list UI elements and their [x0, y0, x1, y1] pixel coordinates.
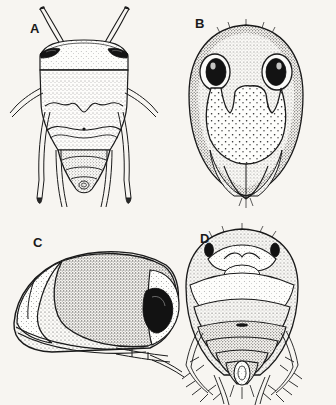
thorax-hemelytra	[40, 70, 128, 150]
panel-c: C	[0, 215, 185, 405]
leg-right-fore	[125, 88, 158, 117]
antenna-right	[103, 7, 129, 47]
figure-b-drawing	[168, 0, 336, 215]
figure-c-drawing	[0, 215, 185, 405]
panel-a: A	[0, 0, 168, 215]
leg-left-fore	[10, 88, 43, 117]
apex-tuft	[239, 198, 253, 208]
genital-capsule	[234, 361, 250, 385]
panel-b: B	[168, 0, 336, 215]
figure-d-drawing	[168, 215, 336, 405]
illustration-plate: A	[0, 0, 336, 405]
panel-label-a: A	[30, 22, 39, 35]
compound-eye-left	[200, 54, 230, 90]
apical-setae	[230, 385, 254, 399]
figure-a-drawing	[0, 0, 168, 215]
panel-label-b: B	[195, 17, 204, 30]
abdomen	[58, 150, 110, 193]
median-spot	[236, 323, 248, 327]
panel-label-d: D	[200, 232, 209, 245]
panel-d: D	[168, 215, 336, 405]
compound-eye-right	[262, 54, 292, 90]
panel-label-c: C	[33, 236, 42, 249]
